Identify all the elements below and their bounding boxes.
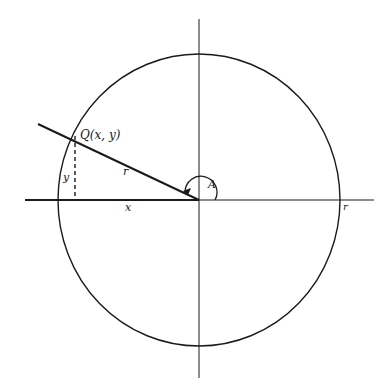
radius-label: r: [123, 165, 129, 178]
angle-label: A: [207, 178, 216, 191]
axis-intercept-label: r: [343, 201, 349, 212]
point-q-label: Q(x, y): [80, 128, 121, 142]
vertical-leg-label: y: [62, 171, 70, 184]
unit-circle-diagram: Q(x, y) r x y A r: [0, 0, 392, 391]
horizontal-leg-label: x: [125, 201, 132, 214]
